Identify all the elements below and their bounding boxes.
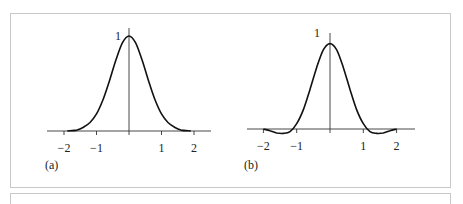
x-tick-label: 1	[360, 139, 366, 153]
x-tick-label: −2	[58, 141, 71, 155]
panel-a-plot: −2−1121(a)	[45, 28, 211, 172]
x-tick-label: 1	[159, 141, 165, 155]
x-tick-label: 2	[394, 139, 400, 153]
x-tick-label: −2	[257, 139, 270, 153]
x-tick-label: 2	[191, 141, 197, 155]
y-tick-label: 1	[115, 29, 121, 43]
figure-canvas: −2−1121(a) −2−1121(b)	[0, 0, 463, 204]
panel-label: (a)	[45, 158, 58, 172]
x-tick-label: −1	[90, 141, 103, 155]
y-tick-label: 1	[314, 26, 320, 40]
panel-b-plot: −2−1121(b)	[244, 26, 415, 172]
x-tick-label: −1	[290, 139, 303, 153]
panel-label: (b)	[244, 158, 258, 172]
